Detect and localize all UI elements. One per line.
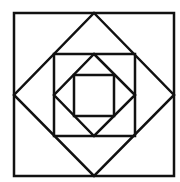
nested-squares-diagram <box>0 0 180 182</box>
diamond-2 <box>54 54 135 136</box>
inner-square <box>74 75 114 116</box>
diamond-1 <box>14 13 174 176</box>
middle-square <box>54 54 135 136</box>
outer-square <box>14 13 174 176</box>
